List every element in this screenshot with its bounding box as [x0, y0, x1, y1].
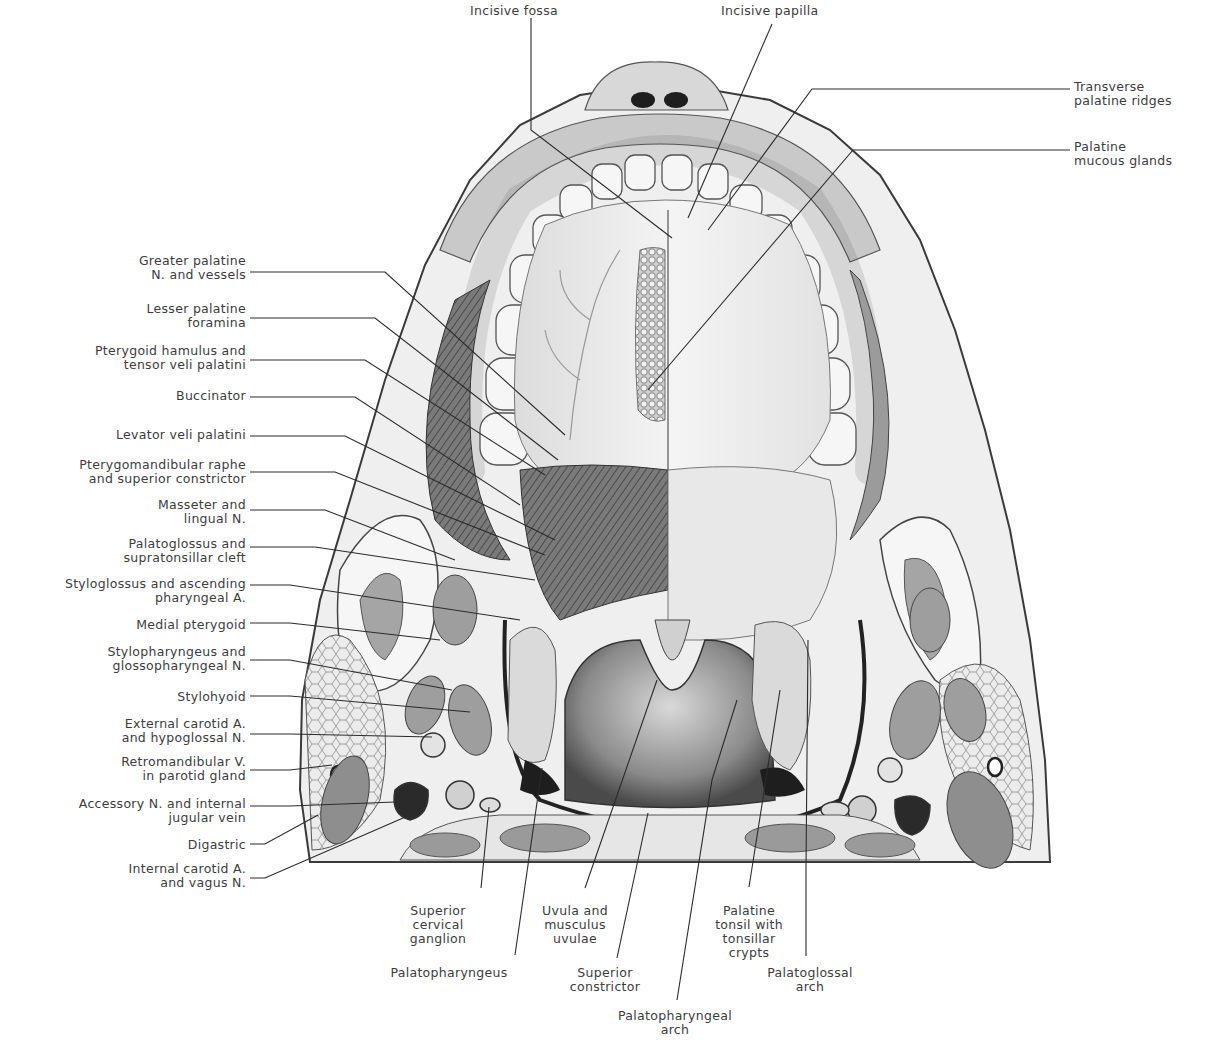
label-palatopharyngeus: Palatopharyngeus	[384, 966, 514, 980]
label-greater-palatine-n-and-vessels: Greater palatine N. and vessels	[10, 254, 246, 282]
nose	[585, 62, 728, 110]
label-palatopharyngeal-arch: Palatopharyngeal arch	[600, 1009, 750, 1037]
label-retromandibular-v-in-parotid-gland: Retromandibular V. in parotid gland	[10, 755, 246, 783]
label-internal-carotid-a-and-vagus-n: Internal carotid A. and vagus N.	[10, 862, 246, 890]
label-digastric: Digastric	[10, 838, 246, 852]
label-uvula-and-musculus-uvulae: Uvula and musculus uvulae	[530, 904, 620, 946]
anatomical-illustration	[0, 0, 1224, 1057]
soft-palate-intact	[668, 467, 837, 640]
label-incisive-fossa: Incisive fossa	[470, 4, 558, 18]
label-incisive-papilla: Incisive papilla	[721, 4, 818, 18]
label-external-carotid-a-and-hypoglossal-n: External carotid A. and hypoglossal N.	[10, 717, 246, 745]
label-stylopharyngeus-and-glossopharyngeal-n: Stylopharyngeus and glossopharyngeal N.	[10, 645, 246, 673]
label-palatoglossus-and-supratonsillar-cleft: Palatoglossus and supratonsillar cleft	[10, 537, 246, 565]
label-masseter-and-lingual-n: Masseter and lingual N.	[10, 498, 246, 526]
label-pterygomandibular-raphe-and-superior-constrictor: Pterygomandibular raphe and superior con…	[10, 458, 246, 486]
label-levator-veli-palatini: Levator veli palatini	[10, 428, 246, 442]
label-transverse-palatine-ridges: Transverse palatine ridges	[1074, 80, 1172, 108]
label-styloglossus-and-ascending-pharyngeal-a: Styloglossus and ascending pharyngeal A.	[10, 577, 246, 605]
label-palatine-mucous-glands: Palatine mucous glands	[1074, 140, 1172, 168]
label-palatoglossal-arch: Palatoglossal arch	[755, 966, 865, 994]
label-superior-constrictor: Superior constrictor	[560, 966, 650, 994]
label-pterygoid-hamulus-and-tensor-veli-palatini: Pterygoid hamulus and tensor veli palati…	[10, 344, 246, 372]
prevertebral-region	[400, 815, 920, 860]
label-accessory-n-and-internal-jugular-vein: Accessory N. and internal jugular vein	[10, 797, 246, 825]
label-palatine-tonsil-with-tonsillar-crypts: Palatine tonsil with tonsillar crypts	[704, 904, 794, 960]
label-stylohyoid: Stylohyoid	[10, 690, 246, 704]
label-medial-pterygoid: Medial pterygoid	[10, 618, 246, 632]
label-buccinator: Buccinator	[10, 389, 246, 403]
label-lesser-palatine-foramina: Lesser palatine foramina	[10, 302, 246, 330]
label-superior-cervical-ganglion: Superior cervical ganglion	[402, 904, 474, 946]
